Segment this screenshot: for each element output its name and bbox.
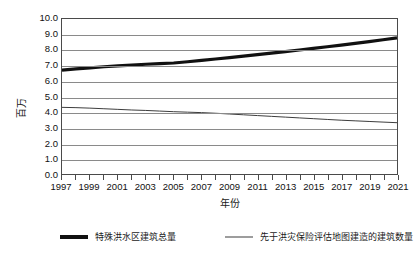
x-axis-tick [370, 175, 371, 180]
y-axis-tick-labels: 10.09.08.07.06.05.04.03.02.01.00.0 [26, 12, 58, 180]
y-axis-tick-label: 6.0 [26, 76, 58, 86]
y-axis-tick-label: 4.0 [26, 107, 58, 117]
gridline [62, 35, 397, 36]
plot-area [61, 18, 398, 175]
y-axis-tick-label: 9.0 [26, 29, 58, 39]
y-axis-tick-label: 10.0 [26, 13, 58, 23]
x-axis-title: 年份 [61, 198, 398, 210]
x-axis-tick-label: 2021 [378, 181, 418, 193]
x-axis-tick [356, 175, 357, 180]
gridline [62, 160, 397, 161]
x-axis-tick [201, 175, 202, 180]
x-axis-tick [145, 175, 146, 180]
x-axis-tick [230, 175, 231, 180]
x-axis-tick [187, 175, 188, 180]
legend-label: 先于洪灾保险评估地图建造的建筑数量 [260, 231, 413, 243]
x-axis-tick [244, 175, 245, 180]
x-axis-tick [131, 175, 132, 180]
x-axis-tick [342, 175, 343, 180]
legend-swatch-thick-line-icon [60, 231, 88, 243]
legend-entry-pre-firm-buildings: 先于洪灾保险评估地图建造的建筑数量 [225, 230, 413, 244]
x-axis-tick [173, 175, 174, 180]
gridline [62, 98, 397, 99]
y-axis-tick-label: 8.0 [26, 44, 58, 54]
legend-entry-total-buildings: 特殊洪水区建筑总量 [60, 230, 176, 244]
x-axis-tick [215, 175, 216, 180]
x-axis-tick [286, 175, 287, 180]
gridline [62, 145, 397, 146]
line-chart: 百万 10.09.08.07.06.05.04.03.02.01.00.0 19… [0, 0, 419, 256]
y-axis-tick-label: 5.0 [26, 92, 58, 102]
y-axis-tick-label: 1.0 [26, 154, 58, 164]
gridline [62, 113, 397, 114]
y-axis-tick-label: 2.0 [26, 139, 58, 149]
x-axis-tick [75, 175, 76, 180]
plot-series-svg [62, 19, 397, 174]
x-axis-tick-marks [61, 175, 398, 180]
x-axis-tick [61, 175, 62, 180]
gridline [62, 82, 397, 83]
x-axis-tick [103, 175, 104, 180]
x-axis-tick [398, 175, 399, 180]
chart-legend: 特殊洪水区建筑总量 先于洪灾保险评估地图建造的建筑数量 [55, 230, 405, 250]
legend-label: 特殊洪水区建筑总量 [95, 231, 176, 243]
series-line-1 [62, 107, 397, 122]
y-axis-tick-label: 3.0 [26, 123, 58, 133]
x-axis-tick [258, 175, 259, 180]
gridline [62, 66, 397, 67]
x-axis-tick [300, 175, 301, 180]
x-axis-tick-labels: 1997199920012003200520072009201120132015… [61, 181, 398, 197]
y-axis-tick-label: 7.0 [26, 60, 58, 70]
gridline [62, 129, 397, 130]
legend-swatch-thin-line-icon [225, 231, 253, 243]
x-axis-tick [314, 175, 315, 180]
x-axis-tick [117, 175, 118, 180]
x-axis-tick [272, 175, 273, 180]
x-axis-tick [159, 175, 160, 180]
y-axis-tick-label: 0.0 [26, 170, 58, 180]
x-axis-tick [384, 175, 385, 180]
gridline [62, 50, 397, 51]
x-axis-tick [328, 175, 329, 180]
x-axis-tick [89, 175, 90, 180]
